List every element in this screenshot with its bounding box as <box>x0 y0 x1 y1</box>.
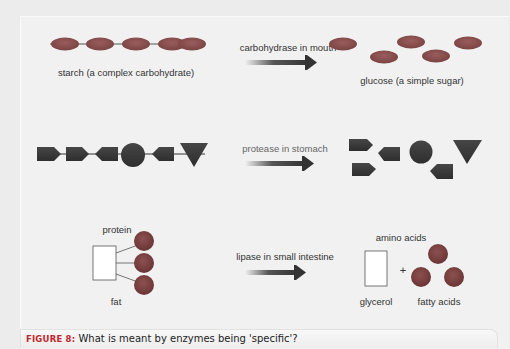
fatty-acids-group <box>411 244 464 287</box>
fatty-acid-icon <box>134 275 154 295</box>
fat-molecule <box>93 231 154 295</box>
glucose-label: glucose (a simple sugar) <box>360 75 464 86</box>
glucose-icon <box>370 51 398 64</box>
amino-acid-pentagon-icon <box>349 139 373 151</box>
protease-label: protease in stomach <box>242 143 328 154</box>
protein-label: protein <box>102 224 131 235</box>
glycerol-icon <box>365 251 387 286</box>
amino-acid-circle-icon <box>410 141 433 164</box>
glucose-unit-icon <box>122 38 150 51</box>
arrow-icon <box>245 265 306 280</box>
amino-acid-triangle-icon <box>453 140 482 164</box>
glucose-icon <box>329 38 357 51</box>
lipase-label: lipase in small intestine <box>236 251 334 262</box>
protein-chain <box>37 143 208 167</box>
amino-acid-pentagon-icon <box>152 147 174 161</box>
amino-acid-pentagon-icon <box>430 164 453 179</box>
amino-acid-pentagon-icon <box>352 163 376 176</box>
amino-acid-circle-icon <box>121 143 145 167</box>
fatty-acid-icon <box>134 253 154 273</box>
starch-chain <box>50 38 195 51</box>
amino-acids-label: amino acids <box>376 232 427 243</box>
arrow-icon <box>245 55 317 70</box>
glucose-icon <box>454 37 482 50</box>
glucose-molecules <box>329 36 482 64</box>
amino-acids-separated <box>349 139 482 179</box>
fatty-acid-icon <box>444 267 464 287</box>
glycerol-icon <box>93 246 116 280</box>
amino-acid-pentagon-icon <box>66 147 89 161</box>
amino-acid-pentagon-icon <box>37 147 61 161</box>
glucose-icon <box>397 36 425 49</box>
carbohydrase-label: carbohydrase in mouth <box>240 42 337 53</box>
amino-acid-pentagon-icon <box>378 147 400 161</box>
figure-number: FIGURE 8: <box>26 334 75 344</box>
fatty-acid-icon <box>411 267 431 287</box>
fat-label: fat <box>111 296 122 307</box>
arrow-icon <box>245 156 314 171</box>
starch-label: starch (a complex carbohydrate) <box>58 67 194 78</box>
figure-caption-text: What is meant by enzymes being 'specific… <box>75 333 297 344</box>
glucose-unit-icon <box>178 38 206 51</box>
amino-acid-triangle-icon <box>180 143 208 167</box>
amino-acid-pentagon-icon <box>95 147 118 161</box>
figure-caption: FIGURE 8: What is meant by enzymes being… <box>20 329 498 348</box>
glucose-unit-icon <box>51 38 79 51</box>
glycerol-label: glycerol <box>360 296 393 307</box>
fatty-acid-icon <box>428 244 448 264</box>
plus-sign: + <box>400 264 406 276</box>
glucose-icon <box>422 50 450 63</box>
fatty-acid-icon <box>134 231 154 251</box>
fatty-acids-label: fatty acids <box>418 296 461 307</box>
glucose-unit-icon <box>86 38 114 51</box>
